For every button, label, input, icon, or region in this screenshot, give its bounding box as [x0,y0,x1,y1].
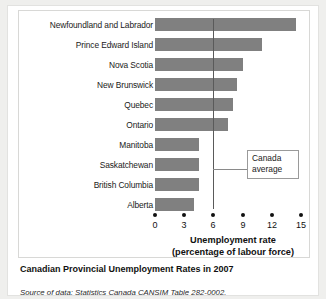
bar [155,158,199,171]
bar-row: Ontario [19,117,311,137]
x-tick-dot [270,213,274,217]
x-tick-dot [182,213,186,217]
x-tick-label: 15 [296,220,306,230]
bar-row: Newfoundland and Labrador [19,17,311,37]
category-label: New Brunswick [21,79,153,92]
category-label: Nova Scotia [21,59,153,72]
x-axis-title: Unemployment rate (percentage of labour … [155,235,311,258]
x-tick-dot [211,213,215,217]
figure-source: Source of data: Statistics Canada CANSIM… [20,288,226,297]
category-label: Prince Edward Island [21,39,153,52]
x-tick-label: 9 [240,220,245,230]
x-tick-label: 12 [267,220,277,230]
category-label: Newfoundland and Labrador [21,19,153,32]
category-label: British Columbia [21,179,153,192]
page-panel: Newfoundland and Labrador Prince Edward … [8,6,318,295]
x-axis-title-line2: (percentage of labour force) [155,247,311,259]
bar-row: Prince Edward Island [19,37,311,57]
bar [155,118,228,131]
x-tick-dot [241,213,245,217]
canada-average-label-line2: average [252,164,295,175]
canada-average-leader-line [213,169,249,170]
bar-row: New Brunswick [19,77,311,97]
x-tick-label: 0 [152,220,157,230]
figure-page: Newfoundland and Labrador Prince Edward … [0,0,326,299]
x-tick-dot [299,213,303,217]
x-axis: 0 3 6 9 12 15 [19,209,311,237]
bar [155,38,262,51]
bar-row: British Columbia [19,177,311,197]
bar [155,178,199,191]
plot-area: Newfoundland and Labrador Prince Edward … [19,11,311,259]
bar-row: Nova Scotia [19,57,311,77]
x-tick-dot [153,213,157,217]
bar [155,18,296,31]
bar [155,78,237,91]
x-axis-title-line1: Unemployment rate [155,235,311,247]
category-label: Quebec [21,99,153,112]
x-tick-label: 3 [181,220,186,230]
category-label: Ontario [21,119,153,132]
x-tick-label: 6 [210,220,215,230]
canada-average-line [213,19,214,209]
figure-caption: Canadian Provincial Unemployment Rates i… [20,264,234,274]
bar-row: Quebec [19,97,311,117]
category-label: Manitoba [21,139,153,152]
canada-average-callout: Canada average [247,150,299,179]
category-label: Saskatchewan [21,159,153,172]
chart-figure: Newfoundland and Labrador Prince Edward … [18,10,310,258]
bar [155,138,199,151]
bar [155,58,243,71]
bar [155,98,233,111]
canada-average-label-line1: Canada [252,153,295,164]
